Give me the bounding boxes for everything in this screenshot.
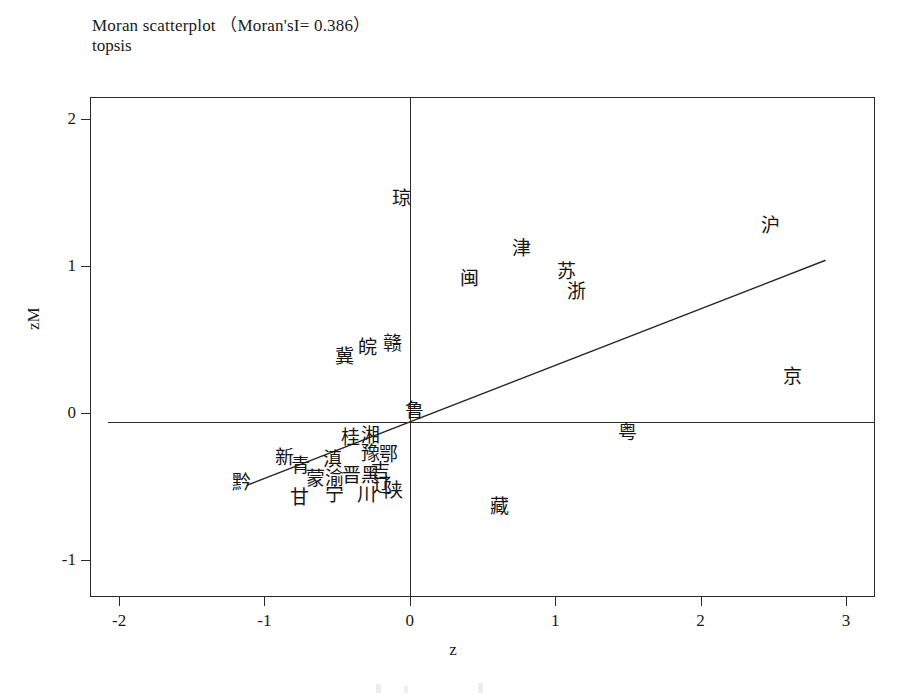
data-point-label: 粤 (618, 423, 637, 442)
x-axis-tick (119, 597, 120, 606)
data-point-label: 鲁 (405, 401, 424, 420)
regression-line-layer (90, 97, 875, 597)
x-axis-tick-label: -1 (257, 611, 271, 631)
x-axis-tick-label: 3 (842, 611, 851, 631)
data-point-label: 甘 (290, 488, 309, 507)
moran-regression-line-icon (90, 97, 875, 597)
scan-artifact (404, 686, 408, 693)
data-point-label: 川 (357, 485, 376, 504)
x-axis-tick-labels: -2-10123 (90, 611, 875, 637)
x-axis-tick (410, 597, 411, 606)
y-axis-title: zM (24, 307, 44, 330)
y-axis-tick (81, 266, 90, 267)
x-axis-tick (846, 597, 847, 606)
data-point-label: 津 (512, 239, 531, 258)
scan-artifact (376, 684, 381, 693)
x-axis-tick-label: 2 (696, 611, 705, 631)
moran-scatterplot-figure: Moran scatterplot （Moran'sI= 0.386） tops… (0, 0, 906, 700)
plot-area: 琼沪津苏闽浙赣皖冀京鲁粤桂湘豫鄂新滇青吉晋黑蒙渝黔辽陕川宁甘藏 (90, 97, 875, 597)
y-axis-tick (81, 413, 90, 414)
y-axis-tick-label: -1 (62, 550, 76, 570)
x-axis-tick-label: 1 (551, 611, 560, 631)
y-axis-tick-label: 1 (68, 256, 77, 276)
x-axis-tick (264, 597, 265, 606)
data-point-label: 冀 (335, 346, 354, 365)
data-point-label: 皖 (358, 338, 377, 357)
scan-artifact (478, 683, 483, 693)
x-axis-tick-label: 0 (406, 611, 415, 631)
x-axis-ticks (90, 597, 875, 606)
y-axis-tick-label: 2 (68, 109, 77, 129)
data-point-label: 闽 (460, 268, 479, 287)
y-axis-tick-label: 0 (68, 403, 77, 423)
data-point-label: 宁 (325, 485, 344, 504)
y-axis-tick (81, 119, 90, 120)
y-axis-tick-labels: 210-1 (30, 97, 76, 597)
data-point-label: 陕 (384, 480, 403, 499)
x-axis-tick (555, 597, 556, 606)
data-point-label: 黔 (232, 473, 251, 492)
data-point-label: 桂 (341, 427, 360, 446)
data-point-label: 京 (783, 367, 802, 386)
data-point-label: 藏 (490, 496, 509, 515)
y-axis-tick (81, 560, 90, 561)
chart-title: Moran scatterplot （Moran'sI= 0.386） (92, 11, 370, 36)
data-point-label: 苏 (557, 261, 576, 280)
data-point-label: 浙 (567, 282, 586, 301)
y-axis-ticks (81, 97, 90, 597)
chart-subtitle: topsis (92, 36, 132, 56)
data-point-label: 琼 (392, 189, 411, 208)
x-axis-tick (701, 597, 702, 606)
data-point-label: 赣 (383, 333, 402, 352)
x-axis-tick-label: -2 (112, 611, 126, 631)
data-point-label: 沪 (761, 215, 780, 234)
x-axis-title: z (0, 640, 906, 660)
